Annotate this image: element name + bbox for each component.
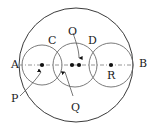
label-o: O (68, 26, 77, 37)
center-dot-r (109, 63, 113, 67)
label-q: Q (71, 102, 80, 113)
label-r: R (107, 70, 115, 81)
leader-line-p (20, 72, 41, 96)
center-dot-q (70, 63, 74, 67)
label-c: C (48, 35, 56, 46)
center-dot-o (77, 63, 81, 67)
label-b: B (139, 58, 147, 69)
label-p: P (11, 93, 18, 104)
label-d: D (88, 35, 97, 46)
leader-line-q (65, 72, 73, 96)
geometry-figure: A B C O D P Q R (0, 0, 159, 131)
center-dot-p (40, 63, 44, 67)
label-a: A (11, 59, 19, 70)
